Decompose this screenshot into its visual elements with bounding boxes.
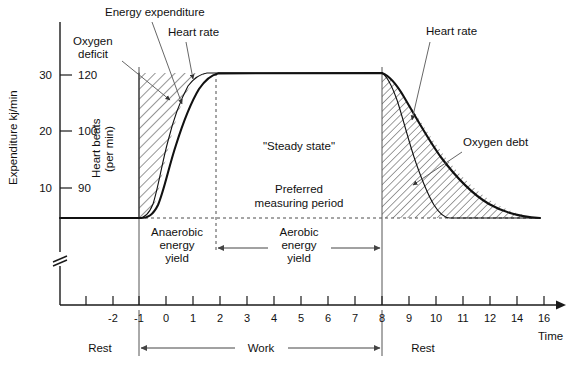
x-label-0: 0 xyxy=(163,312,169,324)
exercise-physiology-figure: 30 20 10 120 100 90 Expenditure kj/min H… xyxy=(0,0,581,366)
anaerobic-label-line1: Anaerobic xyxy=(151,226,203,238)
oxygen-deficit-label-line2: deficit xyxy=(78,48,109,60)
aerobic-label-line2: energy xyxy=(281,239,316,251)
steady-state-label: "Steady state" xyxy=(263,140,335,152)
oxygen-deficit-label-line1: Oxygen xyxy=(73,35,113,47)
x-label--1: -1 xyxy=(134,312,144,324)
y-label-10: 10 xyxy=(39,182,52,194)
y-label-20: 20 xyxy=(39,125,52,137)
oxygen-debt-label: Oxygen debt xyxy=(463,136,529,148)
aerobic-label-line3: yield xyxy=(287,252,311,264)
anaerobic-label-line2: energy xyxy=(159,239,194,251)
x-axis-arrow xyxy=(556,301,566,310)
x-ticks xyxy=(86,296,544,305)
x-label-14: 14 xyxy=(511,312,523,324)
hr-axis-title-line2: (per min) xyxy=(103,126,115,172)
y-axis-break-icon xyxy=(53,256,67,266)
x-label-9: 9 xyxy=(406,312,412,324)
y-axis-title: Expenditure kj/min xyxy=(7,90,19,185)
preferred-period-line2: measuring period xyxy=(255,197,344,209)
anaerobic-label-line3: yield xyxy=(165,252,189,264)
hr-axis-title-line1: Heart beats xyxy=(90,118,102,178)
x-label-12: 12 xyxy=(484,312,496,324)
x-label-16: 16 xyxy=(538,312,550,324)
x-label-8: 8 xyxy=(379,312,385,324)
heart-rate-label-left: Heart rate xyxy=(168,26,219,38)
phase-label-rest-right: Rest xyxy=(411,342,435,354)
energy-expenditure-label: Energy expenditure xyxy=(105,6,205,18)
phase-label-work: Work xyxy=(248,342,275,354)
x-label-10: 10 xyxy=(430,312,442,324)
hr-label-120: 120 xyxy=(78,69,97,81)
x-label-3: 3 xyxy=(244,312,250,324)
hr-label-90: 90 xyxy=(78,182,91,194)
x-label-5: 5 xyxy=(298,312,304,324)
x-label--2: -2 xyxy=(108,312,118,324)
x-axis-title: Time xyxy=(538,330,563,342)
preferred-period-line1: Preferred xyxy=(275,183,323,195)
x-label-2: 2 xyxy=(217,312,223,324)
y-label-30: 30 xyxy=(39,69,52,81)
x-label-7: 7 xyxy=(352,312,358,324)
x-label-4: 4 xyxy=(271,312,277,324)
heart-rate-label-right: Heart rate xyxy=(426,25,477,37)
heart-rate-leader-right xyxy=(412,42,430,120)
chart-canvas: 30 20 10 120 100 90 Expenditure kj/min H… xyxy=(0,0,581,366)
x-label-1: 1 xyxy=(190,312,196,324)
x-label-11: 11 xyxy=(457,312,468,324)
phase-label-rest-left: Rest xyxy=(88,342,112,354)
x-label-6: 6 xyxy=(325,312,331,324)
x-tick-labels: -2 -1 0 1 2 3 4 5 6 7 8 9 10 11 12 14 16 xyxy=(108,312,550,324)
aerobic-label-line1: Aerobic xyxy=(280,226,319,238)
